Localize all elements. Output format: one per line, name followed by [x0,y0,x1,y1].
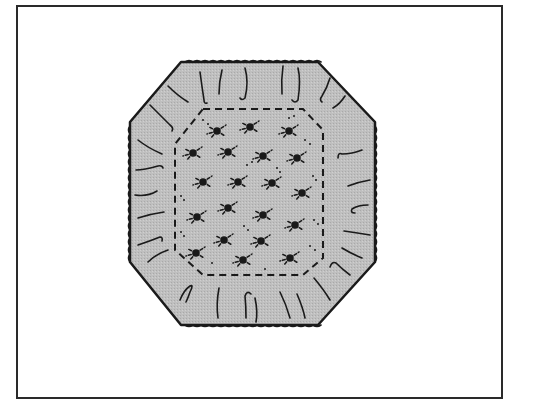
cushion-outer-shape [129,61,377,327]
octagon-cushion-illustration [0,0,557,416]
